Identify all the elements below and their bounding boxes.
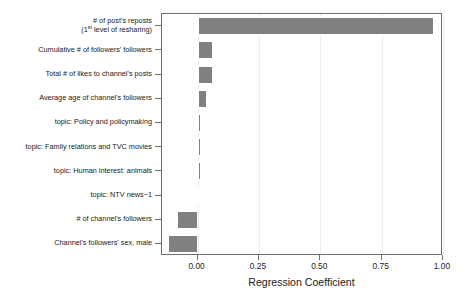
x-axis-tick-label: 1.00 <box>434 261 450 271</box>
bar <box>198 114 202 132</box>
y-axis-tick <box>155 219 161 220</box>
y-axis-tick <box>155 243 161 244</box>
bar <box>197 187 199 205</box>
x-axis-tick <box>381 255 382 260</box>
bar <box>198 17 434 35</box>
y-axis-label: topic: Policy and policymaking <box>0 117 152 126</box>
x-axis-tick <box>442 255 443 260</box>
y-axis-label: # of post's reposts(1st level of reshari… <box>0 16 152 34</box>
y-axis-label: # of channel's followers <box>0 214 152 223</box>
x-axis-tick-label: 0.00 <box>188 261 204 271</box>
plot-area <box>161 13 442 255</box>
bar <box>168 235 198 253</box>
regression-coefficient-chart: # of post's reposts(1st level of reshari… <box>0 0 463 299</box>
y-axis-label: Average age of channel's followers <box>0 93 152 102</box>
y-axis-tick <box>155 74 161 75</box>
x-axis-title: Regression Coefficient <box>161 276 442 288</box>
y-axis-tick <box>155 146 161 147</box>
x-axis-tick-label: 0.50 <box>311 261 327 271</box>
bar <box>198 66 213 84</box>
gridline-0.50 <box>320 14 321 254</box>
y-axis-tick <box>155 170 161 171</box>
gridline-0.25 <box>259 14 260 254</box>
gridline-0.75 <box>382 14 383 254</box>
bar <box>177 211 198 229</box>
bar <box>198 41 213 59</box>
y-axis-tick <box>155 98 161 99</box>
bar <box>198 138 201 156</box>
y-axis-tick <box>155 25 161 26</box>
y-axis-label-line: # of post's reposts <box>0 16 152 25</box>
y-axis-label-line: (1st level of resharing) <box>0 25 152 34</box>
y-axis-label: Channel's followers' sex, male <box>0 238 152 247</box>
bar <box>198 162 201 180</box>
y-axis-label: Total # of likes to channel's posts <box>0 69 152 78</box>
x-axis-tick-label: 0.75 <box>372 261 388 271</box>
x-axis-tick <box>258 255 259 260</box>
y-axis-label: topic: Human interest: animals <box>0 166 152 175</box>
y-axis-tick <box>155 195 161 196</box>
bar <box>198 90 207 108</box>
y-axis-label: topic: Family relations and TVC movies <box>0 142 152 151</box>
x-axis-tick <box>319 255 320 260</box>
y-axis-label: topic: NTV news−1 <box>0 190 152 199</box>
y-axis-tick <box>155 49 161 50</box>
x-axis-tick-label: 0.25 <box>250 261 266 271</box>
y-axis-tick <box>155 122 161 123</box>
gridline-1.00 <box>443 14 444 254</box>
x-axis-tick <box>197 255 198 260</box>
y-axis-label: Cumulative # of followers' followers <box>0 45 152 54</box>
